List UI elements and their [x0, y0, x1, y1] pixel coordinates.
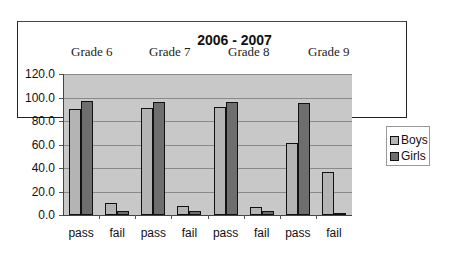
y-tick-mark [59, 168, 63, 169]
y-tick-mark [59, 74, 63, 75]
x-tick-label: pass [206, 226, 246, 240]
y-axis [63, 74, 64, 215]
x-tick-mark [280, 215, 281, 219]
y-tick-mark [59, 192, 63, 193]
x-tick-mark [316, 215, 317, 219]
boys-swatch-icon [390, 136, 399, 145]
x-tick-label: pass [61, 226, 101, 240]
x-tick-label: fail [169, 226, 209, 240]
chart-title: 2006 - 2007 [0, 32, 449, 48]
gridline [63, 74, 352, 75]
bar-girls-pass [81, 101, 93, 215]
grade-label: Grade 8 [228, 44, 270, 60]
x-tick-label: pass [278, 226, 318, 240]
plot-area [63, 74, 352, 215]
legend: Boys Girls [386, 126, 430, 166]
bar-boys-pass [214, 107, 226, 215]
legend-item-girls: Girls [390, 149, 426, 163]
bar-boys-pass [69, 109, 81, 215]
y-tick-mark [59, 145, 63, 146]
x-tick-mark [171, 215, 172, 219]
bar-girls-pass [298, 103, 310, 215]
x-tick-label: fail [314, 226, 354, 240]
x-tick-label: fail [97, 226, 137, 240]
y-tick-label: 60.0 [0, 138, 55, 152]
y-tick-label: 40.0 [0, 161, 55, 175]
bar-girls-pass [153, 102, 165, 215]
bar-boys-pass [286, 143, 298, 215]
legend-item-boys: Boys [390, 133, 428, 147]
grade-label: Grade 7 [149, 44, 191, 60]
x-tick-label: pass [133, 226, 173, 240]
bar-girls-pass [226, 102, 238, 215]
x-tick-mark [135, 215, 136, 219]
bar-boys-fail [105, 203, 117, 215]
y-tick-label: 20.0 [0, 185, 55, 199]
legend-label-girls: Girls [401, 149, 426, 163]
y-tick-mark [59, 98, 63, 99]
y-tick-label: 0.0 [0, 208, 55, 222]
legend-label-boys: Boys [401, 133, 428, 147]
x-tick-mark [244, 215, 245, 219]
x-tick-mark [99, 215, 100, 219]
girls-swatch-icon [390, 152, 399, 161]
x-tick-mark [208, 215, 209, 219]
y-tick-label: 100.0 [0, 91, 55, 105]
y-tick-mark [59, 121, 63, 122]
grade-label: Grade 9 [308, 44, 350, 60]
grade-label: Grade 6 [71, 44, 113, 60]
y-tick-label: 80.0 [0, 114, 55, 128]
gridline [63, 98, 352, 99]
bar-boys-fail [322, 172, 334, 215]
y-tick-mark [59, 215, 63, 216]
y-tick-label: 120.0 [0, 67, 55, 81]
x-tick-label: fail [242, 226, 282, 240]
bar-boys-fail [177, 206, 189, 215]
bar-boys-pass [141, 108, 153, 215]
bar-boys-fail [250, 207, 262, 215]
